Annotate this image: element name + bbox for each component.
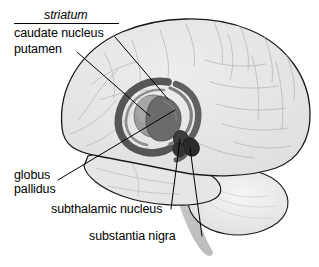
brain-anatomy-diagram: striatum caudate nucleus putamen globus … [0,0,319,267]
label-striatum: striatum [44,8,88,22]
label-putamen: putamen [14,42,62,56]
label-pallidus: pallidus [14,182,56,196]
label-subthalamic-nucleus: subthalamic nucleus [51,202,162,216]
brain-illustration [0,0,319,267]
label-substantia-nigra: substantia nigra [89,229,176,243]
label-globus: globus [14,168,50,182]
striatum-underline [14,23,119,24]
label-caudate-nucleus: caudate nucleus [14,26,104,40]
